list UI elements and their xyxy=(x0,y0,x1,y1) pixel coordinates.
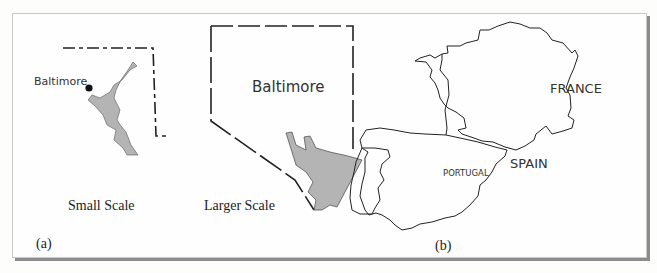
spain-outline xyxy=(360,128,507,230)
panel-b-label: (b) xyxy=(435,238,452,254)
small-scale-caption: Small Scale xyxy=(68,198,135,213)
small-harbor-water xyxy=(88,62,138,155)
france-label: FRANCE xyxy=(550,81,602,96)
panel-a-label: (a) xyxy=(36,236,52,252)
france-spain-border xyxy=(440,54,449,135)
large-map-city-label: Baltimore xyxy=(252,78,325,96)
figure-canvas: Baltimore Small Scale Baltimore Larger S… xyxy=(0,0,657,273)
larger-scale-map: Baltimore Larger Scale xyxy=(204,26,362,213)
spain-label: SPAIN xyxy=(510,156,548,171)
large-county-boundary-left xyxy=(211,26,314,210)
large-harbor-water xyxy=(286,132,362,210)
portugal-label: PORTUGAL xyxy=(443,168,489,178)
portugal-outline xyxy=(350,148,390,214)
iberia-france-map xyxy=(350,22,578,230)
small-map-city-label: Baltimore xyxy=(34,75,87,88)
larger-scale-caption: Larger Scale xyxy=(204,198,275,213)
small-scale-map: Baltimore Small Scale xyxy=(34,48,168,213)
